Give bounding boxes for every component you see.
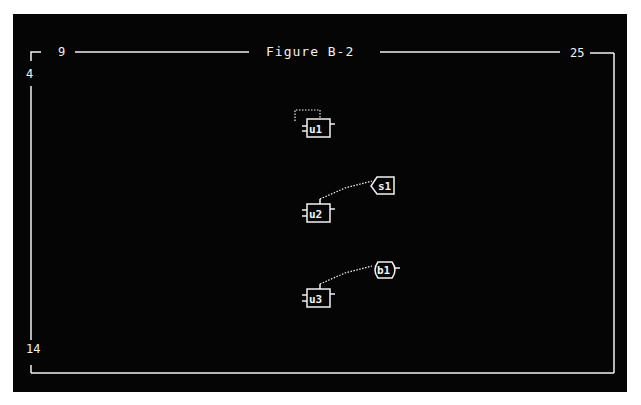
node-u1[interactable]: u1 — [295, 110, 335, 137]
top-right-column-label: 25 — [570, 46, 584, 60]
edge-u2-s1 — [320, 181, 372, 199]
node-u2[interactable]: u2 — [302, 199, 335, 222]
node-label: u2 — [309, 208, 322, 221]
left-bottom-row-label: 14 — [26, 342, 40, 356]
figure-title: Figure B-2 — [266, 44, 354, 59]
left-top-row-label: 4 — [26, 67, 33, 81]
top-left-column-label: 9 — [58, 45, 65, 59]
frame-border — [31, 52, 614, 373]
node-label: s1 — [378, 180, 392, 193]
node-u3[interactable]: u3 — [302, 284, 335, 307]
node-b1[interactable]: b1 — [375, 262, 400, 278]
node-label: u1 — [309, 123, 323, 136]
diagram-canvas: 9 Figure B-2 25 4 14 u1 u2 s1 u3 — [0, 0, 641, 405]
node-s1[interactable]: s1 — [371, 177, 394, 194]
node-label: b1 — [377, 264, 391, 277]
node-label: u3 — [309, 293, 322, 306]
edge-u3-b1 — [320, 266, 372, 284]
